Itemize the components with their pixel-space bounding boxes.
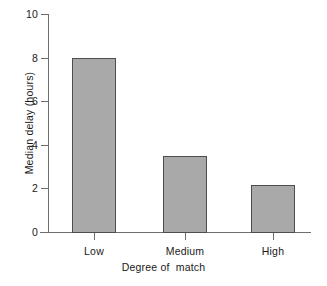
y-axis-tick-label-0: 0 xyxy=(8,227,38,238)
y-axis-tick xyxy=(41,58,49,59)
bar-high xyxy=(251,185,295,233)
y-axis-line xyxy=(48,14,49,233)
bar-medium xyxy=(163,156,207,233)
bar-low xyxy=(72,58,116,233)
x-axis-title: Degree of match xyxy=(0,261,327,273)
bar-chart-figure: 0 2 4 6 8 10 Low Medium High Degree of m… xyxy=(0,0,327,286)
y-axis-tick xyxy=(41,101,49,102)
y-axis-title: Median delay (hours) xyxy=(23,43,35,203)
y-axis-tick xyxy=(41,188,49,189)
x-axis-tick-label-medium: Medium xyxy=(140,245,230,257)
x-axis-tick xyxy=(273,233,274,240)
x-axis-tick-label-high: High xyxy=(228,245,318,257)
y-axis-tick xyxy=(41,145,49,146)
x-axis-tick-label-low: Low xyxy=(49,245,139,257)
y-axis-tick xyxy=(41,232,49,233)
y-axis-tick-label-10: 10 xyxy=(8,9,38,20)
y-axis-tick xyxy=(41,14,49,15)
x-axis-tick xyxy=(185,233,186,240)
x-axis-tick xyxy=(94,233,95,240)
